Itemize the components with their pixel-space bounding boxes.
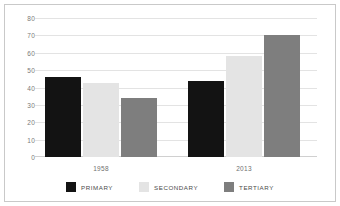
bar-1958-tertiary xyxy=(121,98,157,157)
bar-series-container xyxy=(35,18,317,157)
legend-swatch-tertiary-icon xyxy=(224,182,234,192)
plot-area xyxy=(35,18,317,157)
y-tick-label: 40 xyxy=(11,84,35,91)
x-tick-label-1958: 1958 xyxy=(93,165,109,172)
bar-chart-figure: 80 70 60 50 40 30 20 10 0 xyxy=(0,0,340,206)
y-tick-label: 20 xyxy=(11,119,35,126)
legend-label-secondary: SECONDARY xyxy=(154,184,198,191)
y-tick-label: 80 xyxy=(11,15,35,22)
y-tick-label: 50 xyxy=(11,67,35,74)
bar-2013-secondary xyxy=(226,56,262,157)
y-tick-label: 30 xyxy=(11,101,35,108)
y-tick-label: 0 xyxy=(11,154,35,161)
chart-legend: PRIMARY SECONDARY TERTIARY xyxy=(0,182,340,192)
bar-2013-tertiary xyxy=(264,35,300,157)
legend-item-primary[interactable]: PRIMARY xyxy=(66,182,113,192)
bar-1958-secondary xyxy=(83,83,119,157)
y-tick-label: 60 xyxy=(11,49,35,56)
y-tick-label: 70 xyxy=(11,32,35,39)
bar-2013-primary xyxy=(188,81,224,157)
bar-1958-primary xyxy=(45,77,81,157)
legend-label-primary: PRIMARY xyxy=(81,184,113,191)
legend-swatch-primary-icon xyxy=(66,182,76,192)
legend-item-tertiary[interactable]: TERTIARY xyxy=(224,182,274,192)
y-tick-label: 10 xyxy=(11,136,35,143)
x-tick-label-2013: 2013 xyxy=(236,165,252,172)
legend-label-tertiary: TERTIARY xyxy=(239,184,274,191)
legend-item-secondary[interactable]: SECONDARY xyxy=(139,182,198,192)
legend-swatch-secondary-icon xyxy=(139,182,149,192)
